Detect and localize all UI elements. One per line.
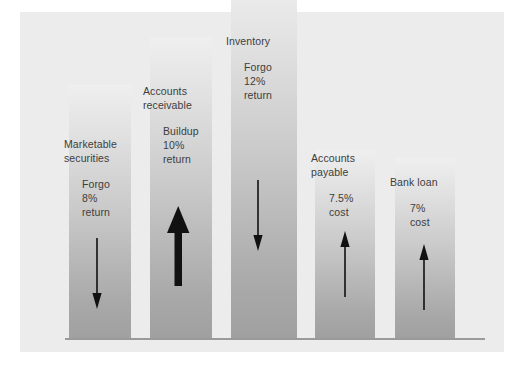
label-heading-inventory: Inventory (226, 34, 312, 48)
label-heading-bank-loan: Bank loan (390, 175, 476, 189)
label-detail-accounts-receivable: Buildup 10% return (163, 124, 223, 166)
baseline-axis (65, 338, 485, 340)
bar-accounts-receivable (150, 37, 212, 338)
label-heading-accounts-receivable: Accounts receivable (143, 84, 229, 112)
figure-container: Marketable securities Forgo 8% return Ac… (0, 0, 526, 387)
label-detail-inventory: Forgo 12% return (244, 60, 304, 102)
label-detail-marketable-securities: Forgo 8% return (82, 177, 142, 219)
label-heading-accounts-payable: Accounts payable (311, 151, 397, 179)
chart-panel: Marketable securities Forgo 8% return Ac… (20, 12, 504, 352)
plot-area: Marketable securities Forgo 8% return Ac… (20, 12, 504, 352)
figure-caption (20, 368, 510, 387)
bar-inventory (231, 0, 297, 338)
label-detail-bank-loan: 7% cost (410, 201, 470, 229)
label-heading-marketable-securities: Marketable securities (64, 137, 148, 165)
label-detail-accounts-payable: 7.5% cost (329, 191, 389, 219)
